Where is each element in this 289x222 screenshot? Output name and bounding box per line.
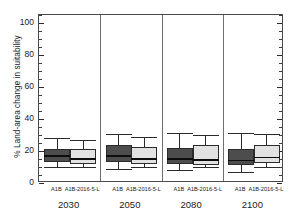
box-plot[interactable]: [39, 15, 284, 181]
y-major-tick: [277, 183, 282, 184]
y-tick-label: 80: [10, 50, 34, 59]
box-iqr: [254, 145, 280, 163]
median-line: [254, 157, 280, 159]
x-group-label: 2100: [222, 200, 282, 210]
x-group-label: 2030: [39, 200, 99, 210]
whisker-cap-upper: [254, 134, 280, 135]
x-group-label: 2050: [100, 200, 160, 210]
y-major-tick: [39, 183, 44, 184]
plot-area: [38, 14, 283, 182]
y-tick-label: 40: [10, 114, 34, 123]
y-tick-label: 20: [10, 146, 34, 155]
x-group-label: 2080: [161, 200, 221, 210]
whisker-upper: [266, 134, 267, 144]
boxplot-figure: % Land-area change in suitability 020406…: [0, 0, 289, 222]
y-tick-label: 100: [10, 18, 34, 27]
y-tick-label: 0: [10, 178, 34, 187]
y-tick-label: 60: [10, 82, 34, 91]
x-category-label: A1B-2016-5-L: [236, 187, 289, 193]
whisker-cap-lower: [254, 167, 280, 168]
